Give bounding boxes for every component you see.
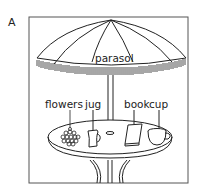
label-cup: cup [149,98,168,110]
parasol-table-diagram: parasol flowers jug book cup [0,0,206,187]
label-parasol: parasol [95,52,134,64]
book-icon [125,110,142,146]
label-book: book [124,98,151,110]
label-flowers: flowers [45,98,83,110]
parasol-icon [37,20,186,133]
label-jug: jug [84,98,101,110]
